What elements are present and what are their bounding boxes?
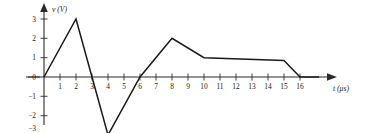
y-tick-label: −2 (28, 111, 36, 120)
x-tick-label: 16 (296, 82, 304, 91)
y-tick-label: 1 (32, 53, 36, 62)
x-axis: 1 2 3 4 5 6 7 8 9 10 11 12 13 14 15 16 t… (26, 73, 349, 93)
y-tick-label: −1 (28, 92, 36, 101)
x-axis-title: t (μs) (333, 84, 349, 93)
y-tick-label: 2 (32, 34, 36, 43)
x-tick-label: 6 (138, 82, 142, 91)
voltage-waveform-curve (44, 19, 319, 133)
x-tick-label: 10 (200, 82, 208, 91)
x-tick-label: 5 (122, 82, 126, 91)
x-tick-label: 15 (280, 82, 288, 91)
y-tick-label: 3 (32, 15, 36, 24)
x-tick-label: 11 (216, 82, 223, 91)
x-tick-label: 9 (186, 82, 190, 91)
plot-canvas: 1 2 3 4 5 6 7 8 9 10 11 12 13 14 15 16 t… (0, 0, 368, 133)
y-axis: 3 2 1 0 −1 −2 −3 v (V) (28, 3, 67, 133)
x-tick-label: 14 (264, 82, 272, 91)
x-tick-label: 13 (248, 82, 256, 91)
x-tick-label: 7 (154, 82, 158, 91)
x-axis-arrow-icon (327, 73, 337, 81)
x-tick-label: 4 (106, 82, 110, 91)
y-axis-tick-labels: 3 2 1 0 −1 −2 −3 (28, 15, 36, 133)
x-tick-label: 12 (232, 82, 240, 91)
x-tick-label: 2 (74, 82, 78, 91)
x-tick-label: 1 (58, 82, 62, 91)
x-tick-label: 8 (170, 82, 174, 91)
voltage-waveform-figure: 1 2 3 4 5 6 7 8 9 10 11 12 13 14 15 16 t… (0, 0, 368, 133)
y-axis-arrow-icon (40, 3, 48, 12)
y-tick-label: −3 (28, 124, 36, 133)
y-axis-title: v (V) (52, 5, 67, 14)
